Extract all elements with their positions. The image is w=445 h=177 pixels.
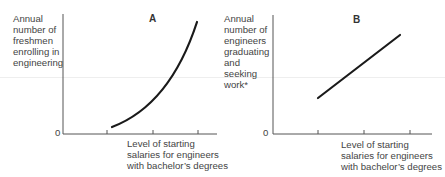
panel-a-curve [112, 22, 197, 127]
diagram-canvas [0, 0, 445, 177]
panel-b-line [318, 35, 400, 98]
panel-b-axes [273, 15, 432, 134]
